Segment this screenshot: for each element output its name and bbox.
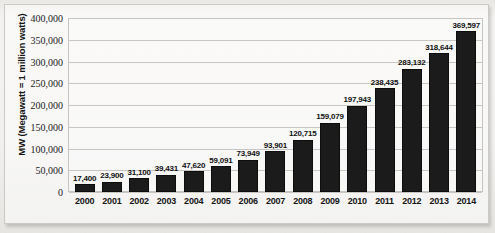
- x-tick-label: 2006: [235, 192, 262, 216]
- bar-slot: 283,132: [398, 18, 425, 192]
- bar-value-label: 318,644: [425, 43, 453, 52]
- bar-value-label: 159,079: [316, 112, 344, 121]
- bar: [347, 106, 367, 192]
- y-tick-label: 350,000: [31, 34, 64, 45]
- bar: [429, 53, 449, 192]
- x-tick-label: 2010: [344, 192, 371, 216]
- x-tick-label: 2005: [207, 192, 234, 216]
- bar-slot: 17,400: [71, 18, 98, 192]
- x-tick-label: 2007: [262, 192, 289, 216]
- bar-value-label: 120,715: [289, 129, 317, 138]
- bar-slot: 197,943: [344, 18, 371, 192]
- bar-slot: 159,079: [316, 18, 343, 192]
- bar: [75, 184, 95, 192]
- bar-slot: 73,949: [235, 18, 262, 192]
- x-tick-label: 2003: [153, 192, 180, 216]
- bar: [375, 88, 395, 192]
- bar: [211, 166, 231, 192]
- bar-slot: 47,620: [180, 18, 207, 192]
- bar-slot: 369,597: [453, 18, 480, 192]
- y-tick-label: 0: [58, 187, 63, 198]
- x-tick-label: 2009: [316, 192, 343, 216]
- bar-value-label: 23,900: [100, 171, 123, 180]
- chart-screenshot: MW (Megawatt = 1 million watts) 050,0001…: [0, 0, 495, 233]
- bar-slot: 120,715: [289, 18, 316, 192]
- plot-region: 050,000100,000150,000200,000250,000300,0…: [68, 18, 483, 216]
- bar-slot: 318,644: [425, 18, 452, 192]
- bar: [402, 69, 422, 192]
- x-tick-label: 2000: [71, 192, 98, 216]
- y-tick-label: 100,000: [31, 143, 64, 154]
- y-tick-label: 250,000: [31, 78, 64, 89]
- bar-value-label: 197,943: [344, 95, 372, 104]
- y-tick-label: 400,000: [31, 13, 64, 24]
- x-tick-label: 2013: [425, 192, 452, 216]
- bar: [156, 175, 176, 192]
- y-axis-title: MW (Megawatt = 1 million watts): [16, 0, 27, 180]
- x-tick-label: 2001: [98, 192, 125, 216]
- bar: [129, 178, 149, 192]
- x-axis: 2000200120022003200420052006200720082009…: [68, 192, 483, 216]
- bar-slot: 23,900: [98, 18, 125, 192]
- y-tick-label: 150,000: [31, 121, 64, 132]
- bar: [456, 31, 476, 192]
- y-tick-label: 300,000: [31, 56, 64, 67]
- bar-slot: 59,091: [207, 18, 234, 192]
- bar-value-label: 17,400: [73, 174, 96, 183]
- x-tick-label: 2014: [453, 192, 480, 216]
- bar-slot: 39,431: [153, 18, 180, 192]
- x-tick-label: 2012: [398, 192, 425, 216]
- bar-series: 17,40023,90031,10039,43147,62059,09173,9…: [68, 18, 483, 192]
- bar: [293, 140, 313, 193]
- bar-value-label: 47,620: [182, 161, 205, 170]
- bar-value-label: 283,132: [398, 58, 426, 67]
- bar-slot: 31,100: [126, 18, 153, 192]
- bar-value-label: 369,597: [453, 21, 481, 30]
- bar: [102, 182, 122, 192]
- bar-slot: 93,901: [262, 18, 289, 192]
- bar: [238, 160, 258, 192]
- x-tick-label: 2011: [371, 192, 398, 216]
- bar-value-label: 39,431: [155, 164, 178, 173]
- bar-value-label: 93,901: [264, 141, 287, 150]
- x-tick-label: 2004: [180, 192, 207, 216]
- bar-value-label: 31,100: [128, 168, 151, 177]
- bar: [265, 151, 285, 192]
- y-tick-label: 200,000: [31, 100, 64, 111]
- figure-frame: MW (Megawatt = 1 million watts) 050,0001…: [4, 4, 489, 224]
- x-tick-label: 2002: [126, 192, 153, 216]
- x-tick-label: 2008: [289, 192, 316, 216]
- bar-value-label: 238,435: [371, 78, 399, 87]
- bar-slot: 238,435: [371, 18, 398, 192]
- bar: [320, 123, 340, 192]
- bar: [184, 171, 204, 192]
- bar-value-label: 59,091: [209, 156, 232, 165]
- bar-value-label: 73,949: [237, 149, 260, 158]
- y-tick-label: 50,000: [36, 165, 64, 176]
